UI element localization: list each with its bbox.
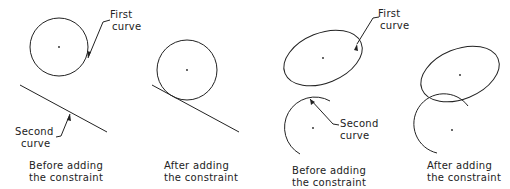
- first-curve-leader-2: [357, 17, 379, 44]
- second-curve-arc: [285, 97, 330, 154]
- first-curve-label: First curve: [110, 9, 142, 33]
- first-curve-label-2: First curve: [378, 8, 410, 32]
- arrowhead-icon: [67, 114, 71, 121]
- second-curve-arc-after: [414, 94, 468, 153]
- center-point: [186, 69, 188, 71]
- caption-before: Before adding the constraint: [29, 160, 103, 184]
- center-point: [451, 129, 453, 131]
- tangent-constraint-diagram: First curve Second curve Before adding t…: [0, 0, 510, 189]
- center-point: [322, 57, 324, 59]
- second-curve-leader: [56, 114, 70, 137]
- second-curve-label: Second curve: [15, 126, 54, 150]
- second-curve-label-2: Second curve: [340, 118, 379, 142]
- first-curve-ellipse-after: [413, 35, 508, 112]
- center-point: [58, 46, 60, 48]
- second-curve-leader-2: [310, 99, 339, 125]
- caption-after: After adding the constraint: [164, 160, 238, 184]
- center-point: [459, 74, 461, 76]
- arrowhead-icon: [87, 51, 91, 58]
- second-curve-line-after: [152, 85, 239, 132]
- caption-before-2: Before adding the constraint: [292, 165, 366, 189]
- first-curve-leader: [88, 20, 110, 58]
- center-point: [312, 127, 314, 129]
- second-curve-line: [20, 85, 107, 132]
- caption-after-2: After adding the constraint: [427, 160, 501, 184]
- arrowhead-icon: [354, 44, 358, 51]
